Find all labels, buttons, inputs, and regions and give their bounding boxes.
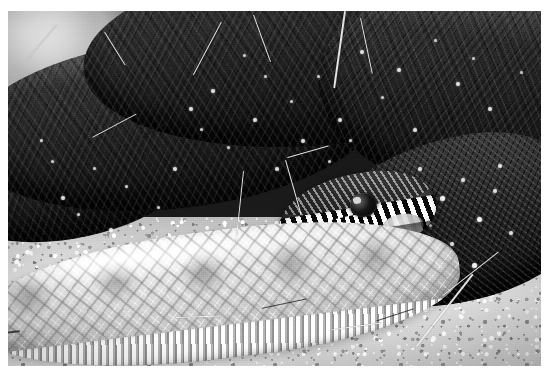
grass-stem — [360, 18, 373, 74]
grass-stem — [287, 145, 328, 158]
grass-stem — [176, 316, 222, 319]
grass-stem-dark — [8, 330, 20, 335]
grass-stem — [104, 32, 126, 66]
grass-stem — [333, 11, 345, 88]
grass-stem — [234, 171, 243, 249]
grass-stem — [193, 21, 223, 75]
photo-page: Black-and-white photograph of a coiled r… — [0, 0, 554, 385]
grass-stem — [253, 14, 271, 61]
grass-stem — [92, 113, 136, 137]
grass-stem-layer — [8, 11, 541, 366]
grass-stem — [415, 273, 473, 347]
grass-stem — [332, 323, 381, 331]
grass-stem — [26, 25, 57, 61]
grass-stem-dark — [141, 120, 169, 138]
grass-stem — [285, 160, 302, 215]
photograph — [8, 11, 541, 366]
grass-stem-dark — [262, 298, 307, 309]
grass-stem-dark — [376, 309, 414, 322]
